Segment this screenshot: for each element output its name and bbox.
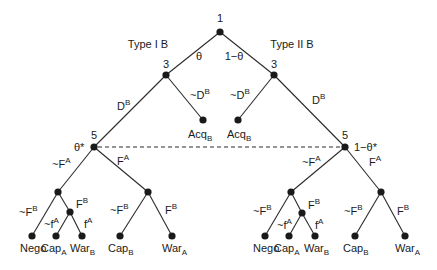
belief-one-minus-theta-star-label: 1−θ* [354, 141, 378, 153]
leaf [78, 232, 85, 239]
edge-label-notDB-left: ~DB [190, 87, 210, 101]
node-5-left [90, 143, 97, 150]
edge-label-FA-left: FA [117, 153, 130, 167]
edge-label-notFA-right: ~FA [302, 154, 321, 168]
leaf-acq-left [199, 116, 206, 123]
leaf-acq-right [234, 116, 241, 123]
leaf-label-capB-left: CapB [108, 242, 134, 257]
prob-theta-label: θ [196, 50, 202, 62]
leaf-label-warB-right: WarB [304, 242, 329, 257]
node-3-left [162, 71, 169, 78]
node-right-notFA [287, 188, 294, 195]
edge-label-fA-right: fA [315, 217, 324, 231]
type-ii-label: Type II B [270, 38, 313, 50]
player-3-left-label: 3 [163, 58, 169, 70]
node-5-right [341, 143, 348, 150]
node-right-FB-inner [298, 209, 305, 216]
root-node [216, 28, 223, 35]
node-left-FB-inner [66, 208, 73, 215]
leaf-label-capA-right: CapA [274, 242, 300, 257]
edge-label-notFA-left: ~FA [52, 156, 71, 170]
edge-label-FB-left-a: FB [76, 196, 88, 210]
leaf [168, 232, 175, 239]
edge-label-FB-right-a: FB [308, 197, 320, 211]
leaf-label-warB-left: WarB [70, 242, 95, 257]
leaf-label-warA-left: WarA [162, 242, 188, 257]
leaf [261, 232, 268, 239]
leaf [311, 232, 318, 239]
leaf-label-capA-left: CapA [41, 242, 67, 257]
type-i-label: Type I B [128, 38, 168, 50]
edge-label-notFB-right-b: ~FB [344, 203, 363, 217]
node-3-right [270, 71, 277, 78]
edge-label-FA-right: FA [369, 154, 382, 168]
leaf-label-acq-right: AcqB [227, 128, 251, 143]
node-left-notFA [54, 188, 61, 195]
leaf [401, 232, 408, 239]
edge-label-notfA-right: ~fA [277, 217, 292, 231]
edge-label-notFB-left-a: ~FB [19, 204, 38, 218]
leaf-label-acq-left: AcqB [188, 128, 212, 143]
leaf [285, 232, 292, 239]
leaf [28, 232, 35, 239]
game-tree-diagram: 1 Type I B Type II B θ 1−θ 3 3 DB ~DB Ac… [0, 0, 437, 270]
tree-labels: 1 Type I B Type II B θ 1−θ 3 3 DB ~DB Ac… [19, 12, 421, 257]
edge-label-FB-left-b: FB [165, 202, 177, 216]
leaf-label-warA-right: WarA [395, 242, 421, 257]
edge-label-notFB-left-b: ~FB [110, 202, 129, 216]
edge-label-notDB-right: ~DB [230, 87, 250, 101]
player-5-right-label: 5 [342, 129, 348, 141]
node-right-FA [377, 188, 384, 195]
player-5-left-label: 5 [91, 129, 97, 141]
belief-theta-star-label: θ* [74, 141, 85, 153]
edge-label-fA-left: fA [84, 216, 93, 230]
leaf-label-capB-right: CapB [343, 242, 369, 257]
edge-label-DB-right: DB [312, 92, 325, 106]
prob-one-minus-theta-label: 1−θ [225, 50, 244, 62]
leaf [351, 232, 358, 239]
player-3-right-label: 3 [271, 58, 277, 70]
root-player-label: 1 [217, 12, 223, 24]
edge-label-DB-left: DB [117, 98, 130, 112]
leaf [52, 232, 59, 239]
leaf [116, 232, 123, 239]
edge-label-notfA-left: ~fA [44, 216, 59, 230]
edge-label-FB-right-b: FB [397, 203, 409, 217]
edge-label-notFB-right-a: ~FB [253, 203, 272, 217]
node-left-FA [144, 188, 151, 195]
